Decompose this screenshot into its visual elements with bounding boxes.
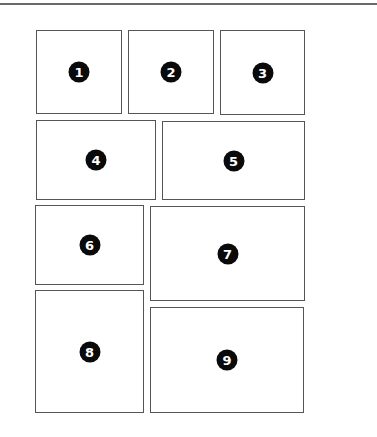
panel-2: 2 bbox=[128, 30, 214, 114]
panel-9: 9 bbox=[150, 307, 304, 413]
panel-6: 6 bbox=[35, 205, 144, 285]
panel-7: 7 bbox=[150, 206, 305, 301]
number-badge: 3 bbox=[252, 62, 273, 83]
number-badge: 1 bbox=[69, 62, 90, 83]
panel-3: 3 bbox=[220, 30, 305, 115]
panel-1: 1 bbox=[36, 30, 122, 114]
number-badge: 4 bbox=[86, 150, 107, 171]
number-badge: 9 bbox=[217, 350, 238, 371]
number-badge: 6 bbox=[79, 235, 100, 256]
top-rule bbox=[0, 3, 377, 5]
number-badge: 2 bbox=[161, 62, 182, 83]
panel-5: 5 bbox=[162, 121, 305, 200]
number-badge: 7 bbox=[217, 243, 238, 264]
number-badge: 8 bbox=[79, 341, 100, 362]
panel-4: 4 bbox=[36, 120, 156, 200]
number-badge: 5 bbox=[223, 150, 244, 171]
panel-8: 8 bbox=[35, 290, 144, 413]
